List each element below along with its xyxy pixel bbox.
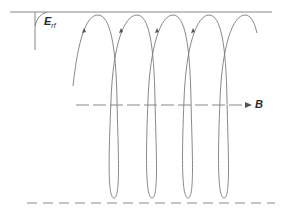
erf-label-sub: rf xyxy=(51,22,55,29)
direction-arrow-icon xyxy=(82,28,86,33)
erf-label: Erf xyxy=(44,15,56,29)
helical-orbit-diagram xyxy=(0,0,289,212)
b-axis-label: B xyxy=(255,98,263,110)
b-axis-arrow-icon xyxy=(245,102,252,108)
helix-trajectory xyxy=(73,15,257,198)
